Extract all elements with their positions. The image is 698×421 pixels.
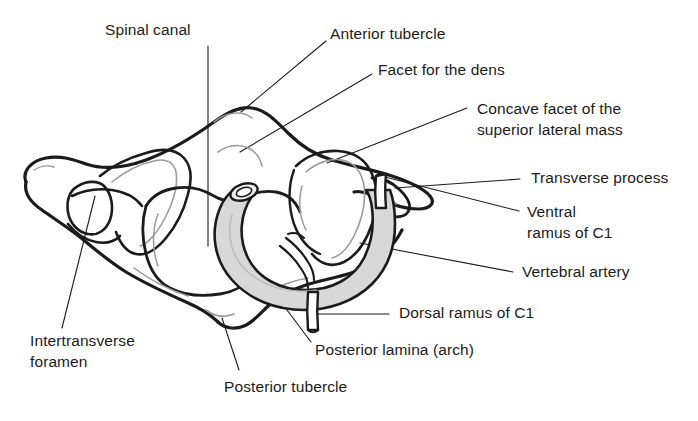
leader-anterior-tubercle	[241, 41, 326, 112]
label-facet-for-the-dens: Facet for the dens	[378, 60, 505, 79]
label-posterior-lamina: Posterior lamina (arch)	[315, 340, 474, 359]
label-spinal-canal: Spinal canal	[105, 20, 191, 39]
label-intertransverse-foramen-line2: foramen	[30, 352, 88, 371]
label-intertransverse-foramen-line1: Intertransverse	[30, 331, 135, 350]
anterior-tubercle-crease	[214, 113, 252, 122]
label-anterior-tubercle: Anterior tubercle	[330, 24, 445, 43]
label-ventral-ramus-line1: Ventral	[527, 202, 576, 221]
label-concave-facet-line2: superior lateral mass	[477, 120, 623, 139]
right-mass-medial-shade	[300, 186, 306, 230]
label-transverse-process: Transverse process	[531, 168, 668, 187]
leader-intertransverse-foramen	[62, 196, 95, 328]
label-concave-facet-line1: Concave facet of the	[477, 99, 621, 118]
label-posterior-tubercle: Posterior tubercle	[224, 377, 347, 396]
dorsal-ramus-c1-stub	[307, 292, 318, 330]
left-tip-crease	[34, 166, 54, 170]
label-vertebral-artery: Vertebral artery	[522, 262, 630, 281]
bone-left-transverse-lower	[26, 182, 218, 322]
label-dorsal-ramus: Dorsal ramus of C1	[399, 303, 534, 322]
nerve-branch-upper	[286, 238, 314, 280]
left-lateral-mass-outline	[100, 150, 191, 254]
leader-facet-for-the-dens	[240, 74, 372, 152]
anatomy-figure: Spinal canal Anterior tubercle Facet for…	[0, 0, 698, 421]
label-ventral-ramus-line2: ramus of C1	[527, 223, 613, 242]
ventral-ramus-c1-stub	[375, 174, 386, 208]
right-mass-medial-border	[290, 170, 321, 254]
facet-for-dens-outline	[218, 146, 262, 166]
leader-concave-facet	[327, 108, 467, 163]
right-lateral-mass-concavity	[306, 160, 365, 258]
spinal-canal-shade	[154, 214, 159, 266]
